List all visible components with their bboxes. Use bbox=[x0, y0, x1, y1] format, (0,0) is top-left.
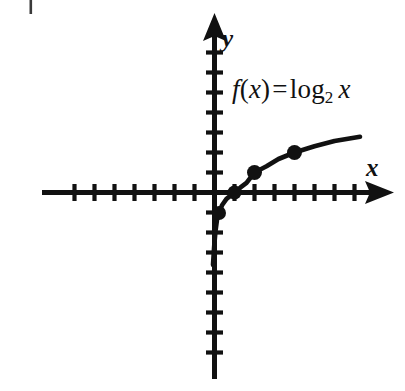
data-point-4-2 bbox=[287, 145, 302, 160]
data-point-1-0 bbox=[228, 186, 242, 200]
corner-scan-mark bbox=[30, 0, 33, 14]
data-point-0.5--1 bbox=[212, 206, 226, 220]
data-point-2-1 bbox=[247, 165, 262, 180]
cartesian-plot-canvas bbox=[0, 0, 405, 391]
marked-points-group bbox=[212, 145, 302, 220]
logarithm-function-graph-figure: f(x)=log2x y x bbox=[0, 0, 405, 391]
